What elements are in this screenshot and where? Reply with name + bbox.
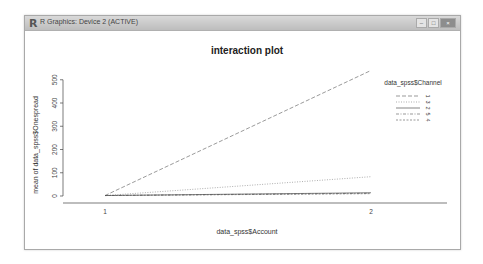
series-lines: [105, 70, 371, 195]
r-graphics-window: R R Graphics: Device 2 (ACTIVE) – □ × in…: [24, 15, 461, 250]
chart-title: interaction plot: [211, 45, 284, 56]
legend-entry-3: 3: [425, 100, 431, 103]
y-tick-label: 400: [51, 97, 58, 108]
x-axis-label: data_spss$Account: [216, 228, 277, 236]
series-line-3: [105, 177, 371, 196]
x-tick-label: 1: [103, 208, 107, 215]
y-tick-label: 0: [51, 194, 58, 198]
x-tick-label: 2: [369, 208, 373, 215]
minimize-button[interactable]: –: [416, 18, 427, 28]
y-axis-label: mean of data_spss$Onespread: [32, 96, 40, 194]
legend: data_spss$Channel13254: [384, 79, 442, 122]
close-button[interactable]: ×: [440, 18, 456, 28]
legend-title: data_spss$Channel: [384, 79, 442, 87]
y-tick-label: 300: [51, 120, 58, 131]
series-line-1: [105, 70, 371, 195]
legend-entry-5: 5: [425, 112, 431, 115]
legend-entry-1: 1: [425, 94, 431, 97]
y-tick-label: 500: [51, 74, 58, 85]
window-title: R Graphics: Device 2 (ACTIVE): [40, 18, 138, 25]
maximize-button[interactable]: □: [428, 18, 439, 28]
r-logo-icon: R: [29, 17, 37, 30]
interaction-plot: interaction plot 010020030040050012 data…: [27, 31, 458, 247]
legend-entry-2: 2: [425, 106, 431, 109]
plot-area: interaction plot 010020030040050012 data…: [27, 31, 458, 247]
y-tick-label: 200: [51, 144, 58, 155]
y-tick-label: 100: [51, 167, 58, 178]
legend-entry-4: 4: [425, 118, 431, 121]
title-bar[interactable]: R R Graphics: Device 2 (ACTIVE) – □ ×: [25, 16, 460, 31]
